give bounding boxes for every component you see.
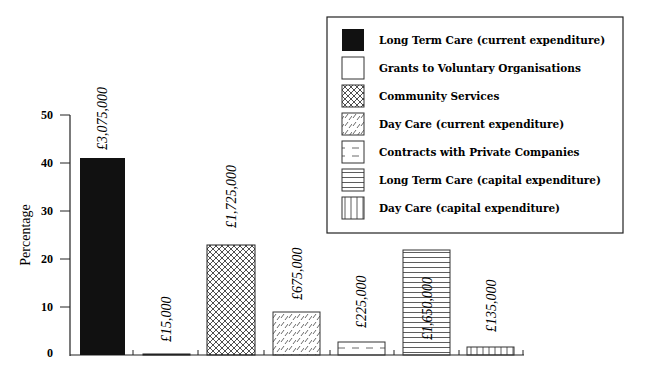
legend-swatch-crosshatch [342, 85, 364, 107]
value-label: £1,650,000 [420, 277, 435, 340]
y-tick-label: 20 [41, 252, 53, 266]
legend-swatch-diagonal [342, 113, 364, 135]
legend-swatch-empty [342, 57, 364, 79]
bar-long-term-care-current [80, 158, 125, 355]
y-tick-label: 40 [41, 156, 53, 170]
legend-label: Day Care (capital expenditure) [379, 202, 560, 214]
y-tick-label: 30 [41, 204, 53, 218]
legend-label: Day Care (current expenditure) [379, 118, 564, 130]
legend-label: Community Services [379, 90, 499, 102]
legend-swatch-solid [342, 29, 364, 51]
legend-swatch-vlines [342, 197, 364, 219]
legend-swatch-hdash [342, 141, 364, 163]
bar-grants-voluntary [143, 354, 190, 355]
value-label: £675,000 [290, 248, 305, 301]
y-tick-label: 10 [41, 300, 53, 314]
legend-label: Long Term Care (current expenditure) [379, 34, 605, 46]
legend-label: Grants to Voluntary Organisations [379, 62, 581, 74]
bar-contracts-private [338, 342, 385, 355]
value-label: £3,075,000 [95, 87, 110, 150]
y-tick-label: 50 [41, 108, 53, 122]
value-label: £15,000 [159, 297, 174, 343]
value-label: £225,000 [354, 276, 369, 329]
bar-day-care-capital [467, 347, 514, 355]
chart: 50 40 30 20 10 0 Percentage £3,075,000 £… [0, 0, 654, 384]
y-tick-label: 0 [47, 346, 53, 360]
value-label: £1,725,000 [224, 165, 239, 228]
bar-community-services [207, 245, 255, 355]
legend-label: Long Term Care (capital expenditure) [379, 174, 601, 186]
value-label: £135,000 [484, 280, 499, 333]
legend-swatch-hlines [342, 169, 364, 191]
y-axis: 50 40 30 20 10 0 Percentage [18, 108, 70, 360]
bar-day-care-current [273, 312, 320, 355]
legend-label: Contracts with Private Companies [379, 146, 580, 158]
y-axis-label: Percentage [18, 204, 33, 265]
legend: Long Term Care (current expenditure) Gra… [327, 17, 623, 233]
